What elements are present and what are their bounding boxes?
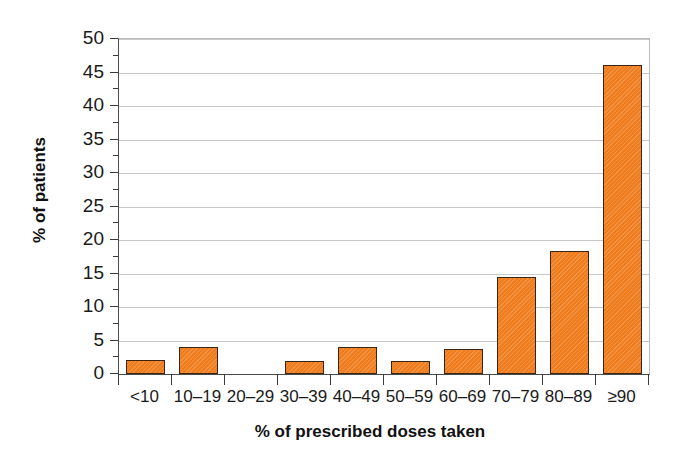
x-tick: [277, 374, 278, 385]
bar-10–19: [179, 347, 218, 374]
bar-<10: [126, 360, 165, 374]
x-tick: [330, 374, 331, 385]
y-tick-label: 10: [58, 296, 104, 315]
y-tick-label: 45: [58, 62, 104, 81]
y-tick-label: 15: [58, 263, 104, 282]
gridline: [119, 73, 649, 74]
bar-70–79: [497, 277, 536, 374]
y-tick-label: 40: [58, 95, 104, 114]
gridline: [119, 39, 649, 40]
y-tick-label: 5: [58, 330, 104, 349]
x-tick-label: <10: [118, 388, 171, 407]
gridline: [119, 207, 649, 208]
y-axis-tick-labels: 05101520253035404550: [52, 0, 104, 459]
y-tick-label: 50: [58, 28, 104, 47]
gridline: [119, 140, 649, 141]
x-tick: [648, 374, 649, 385]
gridline: [119, 173, 649, 174]
gridline: [119, 240, 649, 241]
x-tick: [489, 374, 490, 385]
y-axis-title: % of patients: [30, 65, 50, 315]
x-tick-label: 10–19: [171, 388, 224, 407]
x-tick: [383, 374, 384, 385]
y-tick-label: 0: [58, 363, 104, 382]
x-tick-label: 40–49: [330, 388, 383, 407]
gridline: [119, 106, 649, 107]
y-tick-label: 20: [58, 229, 104, 248]
x-tick: [118, 374, 119, 385]
y-tick-label: 35: [58, 129, 104, 148]
x-tick: [542, 374, 543, 385]
x-tick-label: ≥90: [595, 388, 648, 407]
plot-area: [118, 38, 650, 375]
bar-80–89: [550, 251, 589, 374]
chart-figure: % of patients 05101520253035404550 <1010…: [0, 0, 693, 459]
y-tick-label: 25: [58, 196, 104, 215]
x-axis-title: % of prescribed doses taken: [60, 422, 680, 442]
x-tick: [436, 374, 437, 385]
x-tick-label: 50–59: [383, 388, 436, 407]
bar-40–49: [338, 347, 377, 374]
x-tick-label: 20–29: [224, 388, 277, 407]
x-tick: [171, 374, 172, 385]
x-tick-label: 60–69: [436, 388, 489, 407]
x-tick: [224, 374, 225, 385]
bar-≥90: [603, 65, 642, 374]
bar-30–39: [285, 361, 324, 374]
x-tick-label: 70–79: [489, 388, 542, 407]
y-tick-label: 30: [58, 162, 104, 181]
x-tick-label: 30–39: [277, 388, 330, 407]
bar-50–59: [391, 361, 430, 374]
x-tick: [595, 374, 596, 385]
bar-60–69: [444, 349, 483, 374]
x-tick-label: 80–89: [542, 388, 595, 407]
